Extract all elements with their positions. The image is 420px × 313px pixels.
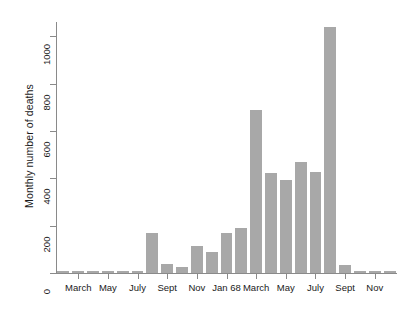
y-tick-label: 0 bbox=[41, 272, 52, 312]
x-tick-label: Nov bbox=[188, 282, 205, 293]
bar bbox=[384, 271, 396, 273]
bar bbox=[280, 180, 292, 273]
x-tick-label: Sept bbox=[157, 282, 177, 293]
x-tick bbox=[227, 274, 228, 279]
bar bbox=[72, 271, 84, 273]
bar bbox=[87, 271, 99, 273]
x-tick bbox=[78, 274, 79, 279]
x-tick-label: Sept bbox=[335, 282, 355, 293]
bar bbox=[146, 233, 158, 273]
bar bbox=[339, 265, 351, 273]
y-axis-title: Monthly number of deaths bbox=[23, 46, 35, 246]
bar bbox=[117, 271, 129, 273]
bar bbox=[132, 271, 144, 273]
x-tick-label: March bbox=[243, 282, 269, 293]
x-tick bbox=[167, 274, 168, 279]
x-tick-label: July bbox=[307, 282, 324, 293]
x-tick bbox=[345, 274, 346, 279]
y-tick-label: 1000 bbox=[41, 35, 52, 75]
x-tick-label: March bbox=[65, 282, 91, 293]
bar bbox=[265, 173, 277, 273]
y-tick-label: 200 bbox=[41, 224, 52, 264]
x-tick bbox=[256, 274, 257, 279]
bar-series bbox=[56, 22, 397, 273]
bar bbox=[295, 162, 307, 273]
bar bbox=[221, 233, 233, 273]
x-tick bbox=[375, 274, 376, 279]
x-tick bbox=[138, 274, 139, 279]
x-tick-label: Nov bbox=[366, 282, 383, 293]
bar bbox=[354, 271, 366, 273]
bar bbox=[310, 172, 322, 273]
x-tick-label: Jan 68 bbox=[212, 282, 241, 293]
bar bbox=[57, 271, 69, 273]
bar bbox=[176, 267, 188, 273]
bar bbox=[161, 264, 173, 273]
x-tick-label: May bbox=[99, 282, 117, 293]
bar bbox=[206, 252, 218, 273]
x-tick-label: May bbox=[277, 282, 295, 293]
bar bbox=[250, 110, 262, 273]
x-tick-label: July bbox=[129, 282, 146, 293]
y-tick-label: 400 bbox=[41, 177, 52, 217]
y-tick-label: 600 bbox=[41, 129, 52, 169]
bar bbox=[369, 271, 381, 273]
x-tick bbox=[108, 274, 109, 279]
bar bbox=[191, 246, 203, 273]
x-tick bbox=[315, 274, 316, 279]
chart-figure: Monthly number of deaths 020040060080010… bbox=[0, 0, 420, 313]
bar bbox=[102, 271, 114, 273]
x-tick bbox=[197, 274, 198, 279]
bar bbox=[324, 27, 336, 273]
y-tick-label: 800 bbox=[41, 82, 52, 122]
x-tick bbox=[286, 274, 287, 279]
bar bbox=[235, 228, 247, 273]
